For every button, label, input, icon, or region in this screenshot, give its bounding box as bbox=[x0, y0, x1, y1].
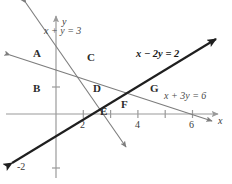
y-tick-label-minus-2: -2 bbox=[17, 162, 25, 172]
equation-label-x-minus-2y-2: x − 2y = 2 bbox=[136, 49, 179, 60]
region-label-g: G bbox=[150, 83, 159, 94]
line-x-minus-2y-2 bbox=[12, 39, 216, 163]
region-label-d: D bbox=[93, 83, 101, 94]
equation-label-x-plus-y-3: x + y = 3 bbox=[44, 26, 81, 36]
x-axis-label: x bbox=[218, 116, 222, 126]
x-tick-label-2: 2 bbox=[80, 120, 85, 130]
region-label-e: E bbox=[100, 106, 107, 117]
x-tick-label-6: 6 bbox=[189, 120, 194, 130]
graph-figure: y x 2 4 6 -2 x + y = 3 x − 2y = 2 x + 3y… bbox=[0, 0, 232, 184]
region-label-b: B bbox=[33, 83, 40, 94]
region-label-a: A bbox=[33, 48, 41, 59]
region-label-f: F bbox=[121, 99, 128, 110]
x-tick-label-4: 4 bbox=[135, 120, 140, 130]
region-label-c: C bbox=[87, 52, 95, 63]
equation-label-x-plus-3y-6: x + 3y = 6 bbox=[164, 91, 206, 101]
